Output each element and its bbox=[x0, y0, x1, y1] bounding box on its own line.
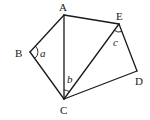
segment-ab bbox=[30, 15, 64, 52]
vertex-label-d: D bbox=[135, 75, 143, 87]
segment-ed bbox=[119, 24, 137, 71]
segment-ae bbox=[64, 15, 119, 24]
angle-label-c: c bbox=[113, 36, 118, 48]
geometry-diagram: A B C D E a b c bbox=[0, 0, 150, 120]
angle-arc-b bbox=[64, 90, 69, 92]
angle-arc-a bbox=[35, 46, 38, 58]
angle-label-a: a bbox=[40, 47, 46, 59]
angle-label-b: b bbox=[67, 73, 73, 85]
segment-bc bbox=[30, 52, 64, 99]
vertex-label-a: A bbox=[59, 1, 67, 13]
vertex-label-b: B bbox=[15, 47, 22, 59]
angle-arc-c bbox=[114, 30, 122, 32]
vertex-label-e: E bbox=[116, 10, 123, 22]
vertex-label-c: C bbox=[60, 104, 67, 116]
segment-ce bbox=[64, 24, 119, 99]
